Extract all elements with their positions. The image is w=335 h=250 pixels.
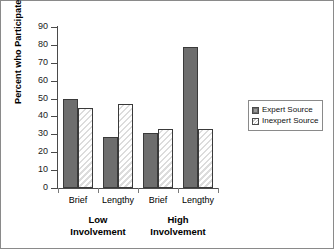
y-tick-mark bbox=[51, 99, 58, 100]
y-tick-mark bbox=[51, 134, 58, 135]
x-category-label: Brief bbox=[138, 195, 178, 205]
y-tick-label: 30 bbox=[22, 129, 48, 138]
group-label-high-line1: High bbox=[128, 214, 228, 226]
y-tick-label: 50 bbox=[22, 94, 48, 103]
group-label-high-line2: Involvement bbox=[128, 226, 228, 238]
y-tick-label: 20 bbox=[22, 147, 48, 156]
bar-expert-0 bbox=[63, 99, 78, 188]
y-tick-mark bbox=[51, 45, 58, 46]
y-tick-label: 80 bbox=[22, 40, 48, 49]
bar-expert-3 bbox=[183, 47, 198, 188]
y-tick-mark bbox=[51, 188, 58, 189]
legend-item-inexpert: Inexpert Source bbox=[252, 116, 318, 126]
x-category-label: Lengthy bbox=[98, 195, 138, 205]
x-category-label: Lengthy bbox=[178, 195, 218, 205]
y-tick-label: 90 bbox=[22, 22, 48, 31]
legend-label: Expert Source bbox=[262, 106, 313, 114]
x-tick-mark bbox=[138, 188, 139, 193]
bar-inexpert-1 bbox=[118, 104, 133, 188]
x-category-label: Brief bbox=[58, 195, 98, 205]
bar-inexpert-3 bbox=[198, 129, 213, 188]
plot-area bbox=[58, 27, 218, 188]
chart-figure: Percent who Participated 010203040506070… bbox=[0, 0, 335, 250]
y-tick-mark bbox=[51, 81, 58, 82]
x-tick-mark bbox=[98, 188, 99, 193]
y-tick-mark bbox=[51, 170, 58, 171]
y-tick-mark bbox=[51, 116, 58, 117]
y-tick-mark bbox=[51, 27, 58, 28]
legend-label: Inexpert Source bbox=[262, 117, 318, 125]
chart-legend: Expert SourceInexpert Source bbox=[248, 100, 323, 131]
y-tick-label: 70 bbox=[22, 58, 48, 67]
legend-item-expert: Expert Source bbox=[252, 105, 318, 115]
y-tick-mark bbox=[51, 63, 58, 64]
bar-expert-2 bbox=[143, 133, 158, 188]
y-tick-label: 40 bbox=[22, 111, 48, 120]
y-tick-label: 60 bbox=[22, 76, 48, 85]
legend-swatch-expert-icon bbox=[252, 107, 259, 114]
y-tick-mark bbox=[51, 152, 58, 153]
x-tick-mark bbox=[178, 188, 179, 193]
group-label-high-involvement: High Involvement bbox=[128, 214, 228, 238]
y-tick-label: 0 bbox=[22, 183, 48, 192]
x-tick-mark bbox=[218, 188, 219, 193]
legend-swatch-inexpert-icon bbox=[252, 118, 259, 125]
bar-inexpert-2 bbox=[158, 129, 173, 188]
bar-inexpert-0 bbox=[78, 108, 93, 188]
x-tick-mark bbox=[58, 188, 59, 193]
bar-expert-1 bbox=[103, 137, 118, 188]
y-tick-label: 10 bbox=[22, 165, 48, 174]
